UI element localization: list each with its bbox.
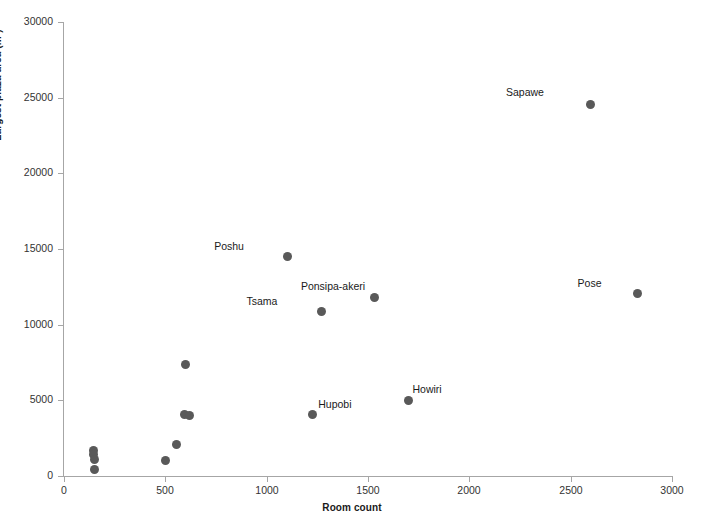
x-tick-label: 1000: [237, 484, 297, 496]
point-label-poshu: Poshu: [214, 241, 244, 252]
y-tick-label: 5000: [3, 394, 53, 405]
x-tick-mark: [469, 477, 470, 482]
y-tick-mark: [58, 400, 63, 401]
y-tick-label-wrap: 30000: [0, 16, 53, 17]
y-tick-label: 20000: [3, 167, 53, 178]
point-label-howiri: Howiri: [413, 384, 442, 395]
x-tick-label: 3000: [642, 484, 702, 496]
x-tick-label: 1500: [338, 484, 398, 496]
x-tick-mark: [571, 477, 572, 482]
point-label-tsama: Tsama: [246, 296, 277, 307]
x-tick-mark: [267, 477, 268, 482]
point-label-hupobi: Hupobi: [318, 399, 351, 410]
x-tick-mark: [165, 477, 166, 482]
data-point-pose[interactable]: [633, 289, 642, 298]
data-point-tsama[interactable]: [317, 307, 326, 316]
y-tick-mark: [58, 98, 63, 99]
y-tick-label-wrap: 10000: [0, 319, 53, 320]
y-tick-mark: [58, 173, 63, 174]
data-point[interactable]: [181, 360, 190, 369]
data-point[interactable]: [172, 440, 181, 449]
point-label-pose: Pose: [578, 278, 602, 289]
x-axis-title: Room count: [0, 502, 704, 513]
data-point[interactable]: [90, 465, 99, 474]
y-tick-mark: [58, 22, 63, 23]
x-tick-mark: [64, 477, 65, 482]
data-point[interactable]: [185, 411, 194, 420]
data-point-sapawe[interactable]: [586, 100, 595, 109]
data-point[interactable]: [161, 456, 170, 465]
y-tick-label-wrap: 0: [0, 470, 53, 471]
y-axis-line: [63, 22, 64, 477]
data-point-howiri[interactable]: [404, 396, 413, 405]
y-tick-label-wrap: 25000: [0, 92, 53, 93]
data-point-ponsipa-akeri[interactable]: [370, 293, 379, 302]
x-tick-label: 0: [34, 484, 94, 496]
x-tick-label: 500: [135, 484, 195, 496]
point-label-ponsipa-akeri: Ponsipa-akeri: [301, 281, 365, 292]
scatter-chart: Largest plaza area (m²) Room count 05000…: [0, 0, 704, 526]
data-point[interactable]: [90, 455, 99, 464]
y-tick-label: 30000: [3, 16, 53, 27]
point-label-sapawe: Sapawe: [506, 87, 544, 98]
y-tick-label-wrap: 5000: [0, 394, 53, 395]
y-tick-label: 0: [3, 470, 53, 481]
x-tick-label: 2000: [439, 484, 499, 496]
y-tick-mark: [58, 325, 63, 326]
data-point-poshu[interactable]: [283, 252, 292, 261]
x-tick-mark: [672, 477, 673, 482]
y-tick-label: 25000: [3, 92, 53, 103]
y-tick-mark: [58, 476, 63, 477]
y-tick-label-wrap: 20000: [0, 167, 53, 168]
y-tick-label-wrap: 15000: [0, 243, 53, 244]
y-tick-label: 15000: [3, 243, 53, 254]
x-tick-mark: [368, 477, 369, 482]
x-tick-label: 2500: [541, 484, 601, 496]
y-tick-mark: [58, 249, 63, 250]
data-point-hupobi[interactable]: [308, 410, 317, 419]
y-tick-label: 10000: [3, 319, 53, 330]
